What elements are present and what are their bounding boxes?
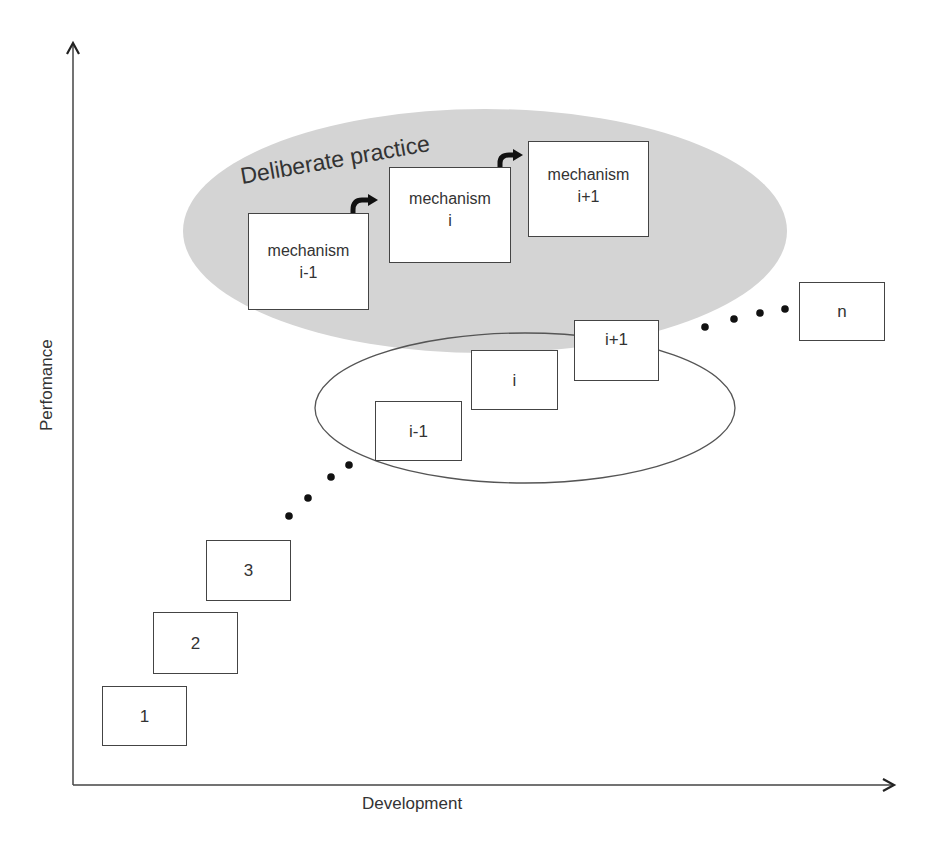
stage-box-3: 3 (206, 540, 291, 601)
stage-box-2: 2 (153, 612, 238, 674)
mechanism-box-i: mechanism i (389, 167, 511, 263)
mechanism-label: mechanism (409, 188, 491, 210)
stage-box-i-minus-1: i-1 (375, 401, 462, 461)
mechanism-label: mechanism (548, 164, 630, 186)
stage-label: 2 (191, 633, 200, 654)
y-axis-label: Perfomance (37, 339, 57, 431)
stage-box-i: i (471, 350, 558, 410)
ellipsis-dots-lower (285, 461, 353, 520)
mechanism-index: i-1 (300, 262, 318, 284)
stage-box-i-plus-1: i+1 (574, 320, 659, 381)
mechanism-box-i-minus-1: mechanism i-1 (248, 213, 369, 310)
mechanism-index: i+1 (578, 186, 600, 208)
stage-label: 1 (140, 706, 149, 727)
mechanism-box-i-plus-1: mechanism i+1 (528, 141, 649, 237)
stage-label: i-1 (409, 421, 428, 442)
stage-label: 3 (244, 560, 253, 581)
stage-box-n: n (799, 282, 885, 341)
mechanism-label: mechanism (268, 240, 350, 262)
stage-label: n (837, 301, 846, 322)
x-axis-label: Development (362, 794, 462, 814)
stage-label: i+1 (605, 329, 628, 350)
stage-label: i (513, 370, 517, 391)
stage-box-1: 1 (102, 686, 187, 746)
mechanism-index: i (448, 210, 452, 232)
